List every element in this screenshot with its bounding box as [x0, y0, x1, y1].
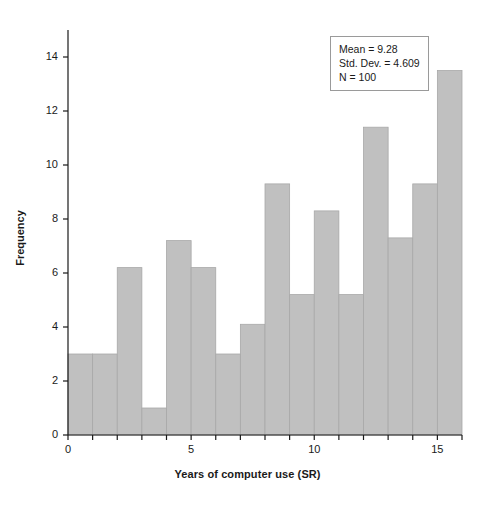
x-tick-label: 0: [53, 443, 83, 455]
histogram-bar: [93, 354, 118, 435]
y-tick-label: 14: [28, 50, 58, 62]
y-tick-label: 10: [28, 158, 58, 170]
statistics-box: Mean = 9.28 Std. Dev. = 4.609 N = 100: [330, 36, 429, 91]
histogram-bar: [339, 295, 364, 435]
y-tick-label: 4: [28, 320, 58, 332]
histogram-bar: [314, 211, 339, 435]
y-tick-label: 8: [28, 212, 58, 224]
stat-std-dev: Std. Dev. = 4.609: [339, 56, 420, 70]
histogram-bar: [388, 238, 413, 435]
histogram-bar: [265, 184, 290, 435]
histogram-bar: [413, 184, 438, 435]
histogram-bar: [167, 241, 192, 435]
x-tick-label: 10: [299, 443, 329, 455]
y-tick-label: 0: [28, 428, 58, 440]
y-tick-label: 6: [28, 266, 58, 278]
x-axis-title: Years of computer use (SR): [0, 468, 495, 480]
x-tick-label: 15: [422, 443, 452, 455]
y-axis-title: Frequency: [14, 178, 26, 298]
stat-mean: Mean = 9.28: [339, 42, 420, 56]
y-tick-label: 2: [28, 374, 58, 386]
histogram-bar: [240, 324, 265, 435]
histogram-bar: [437, 71, 462, 436]
histogram-bar: [216, 354, 241, 435]
y-tick-label: 12: [28, 104, 58, 116]
histogram-bar: [117, 268, 142, 435]
histogram-bar: [68, 354, 93, 435]
stat-n: N = 100: [339, 70, 420, 84]
histogram-bar: [191, 268, 216, 435]
histogram-bar: [142, 408, 167, 435]
bars-group: [68, 71, 462, 436]
x-tick-label: 5: [176, 443, 206, 455]
histogram-bar: [290, 295, 315, 435]
histogram-figure: Frequency Years of computer use (SR) 024…: [0, 0, 495, 508]
histogram-bar: [364, 127, 389, 435]
